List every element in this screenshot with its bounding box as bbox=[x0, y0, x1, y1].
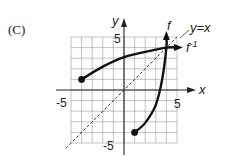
leader-y-equals-x bbox=[180, 30, 189, 38]
y-axis-label: y bbox=[111, 13, 120, 28]
tick-y-pos: 5 bbox=[114, 32, 121, 46]
arrow-f-inverse-icon bbox=[174, 44, 183, 51]
start-point-f bbox=[131, 129, 138, 136]
label-y-equals-x: y=x bbox=[189, 20, 211, 35]
x-axis-label: x bbox=[198, 82, 206, 97]
start-point-f-inverse bbox=[78, 76, 85, 83]
label-f-inverse: f-1 bbox=[186, 39, 198, 55]
y-axis-arrow-icon bbox=[121, 18, 127, 27]
label-f: f bbox=[167, 18, 172, 33]
graph: x y -5 5 5 -5 f y=x f-1 bbox=[0, 0, 225, 161]
tick-x-neg: -5 bbox=[56, 96, 67, 110]
tick-y-neg: -5 bbox=[103, 139, 114, 153]
x-axis-arrow-icon bbox=[187, 87, 196, 93]
tick-x-pos: 5 bbox=[174, 97, 181, 111]
